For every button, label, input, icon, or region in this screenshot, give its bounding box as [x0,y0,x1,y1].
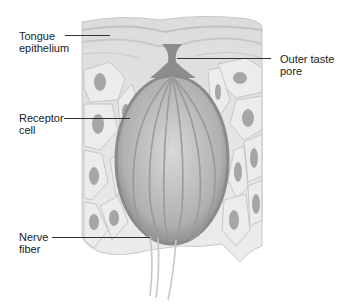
outer-taste-pore-leader [177,58,271,59]
label-line: cell [19,124,64,136]
nerve-fiber-leader [52,237,150,238]
receptor-cell-leader [64,118,130,119]
label-line: Outer taste [280,53,334,65]
taste-bud [116,76,228,244]
label-line: Tongue [19,30,69,42]
label-nerve-fiber: Nerve fiber [19,231,48,255]
label-receptor-cell: Receptor cell [19,112,64,136]
label-line: epithelium [19,42,69,54]
label-tongue-epithelium: Tongue epithelium [19,30,69,54]
label-line: Receptor [19,112,64,124]
label-line: fiber [19,243,48,255]
label-outer-taste-pore: Outer taste pore [280,53,334,77]
tongue-epithelium-leader [65,35,110,36]
label-line: Nerve [19,231,48,243]
label-line: pore [280,65,334,77]
